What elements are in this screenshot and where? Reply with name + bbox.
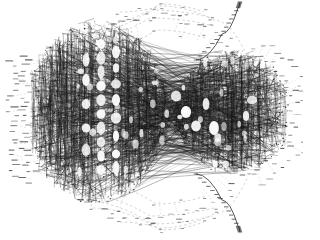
graph-node xyxy=(214,96,215,97)
graph-node xyxy=(283,85,284,86)
graph-node xyxy=(276,103,277,104)
graph-node xyxy=(115,159,116,160)
graph-node xyxy=(174,117,176,119)
graph-node xyxy=(70,192,71,193)
graph-node xyxy=(198,112,199,113)
graph-node xyxy=(94,21,95,22)
graph-node xyxy=(103,178,104,179)
graph-node xyxy=(186,85,187,86)
graph-node xyxy=(67,101,68,102)
graph-node xyxy=(47,135,48,136)
graph-node xyxy=(235,117,237,119)
leaf-connector xyxy=(32,60,41,62)
graph-node xyxy=(158,145,159,146)
graph-node xyxy=(176,117,177,118)
graph-node xyxy=(263,161,264,162)
graph-node xyxy=(283,122,284,123)
graph-node xyxy=(244,60,245,61)
graph-node xyxy=(51,48,52,49)
graph-node xyxy=(181,107,182,108)
graph-node xyxy=(241,73,242,74)
graph-node xyxy=(172,106,173,107)
graph-node xyxy=(105,194,106,195)
graph-node xyxy=(159,145,160,146)
graph-edge xyxy=(54,176,62,178)
graph-node xyxy=(85,88,86,89)
graph-node xyxy=(89,96,90,97)
graph-node xyxy=(36,87,37,88)
graph-node xyxy=(139,68,140,69)
graph-node xyxy=(273,126,274,127)
graph-edge xyxy=(254,167,262,168)
graph-node xyxy=(89,93,90,94)
graph-node xyxy=(151,131,153,133)
graph-node xyxy=(165,86,166,87)
graph-node xyxy=(211,106,212,107)
graph-node xyxy=(258,85,259,86)
graph-node xyxy=(81,122,83,124)
graph-node xyxy=(188,105,189,106)
graph-node xyxy=(226,171,227,172)
graph-node xyxy=(245,96,246,97)
graph-node xyxy=(263,149,264,150)
graph-node xyxy=(239,133,240,134)
lattice-void xyxy=(77,168,82,177)
graph-node xyxy=(161,133,163,135)
graph-node xyxy=(91,179,93,181)
graph-node xyxy=(148,67,150,69)
graph-node xyxy=(189,102,190,103)
graph-node xyxy=(74,153,75,154)
graph-node xyxy=(218,116,219,117)
graph-node xyxy=(233,89,234,90)
graph-node xyxy=(95,56,96,57)
lattice-void xyxy=(171,91,181,102)
graph-node xyxy=(58,161,59,162)
graph-node xyxy=(255,96,256,97)
leaf-connector xyxy=(256,46,263,61)
graph-node xyxy=(151,113,152,114)
graph-node xyxy=(250,56,251,57)
graph-node xyxy=(209,110,211,112)
graph-node xyxy=(244,82,245,83)
graph-node xyxy=(110,198,111,199)
graph-node xyxy=(271,87,272,88)
graph-node xyxy=(162,83,163,84)
graph-node xyxy=(221,106,222,107)
graph-node xyxy=(200,81,202,83)
graph-node xyxy=(225,52,226,53)
graph-node xyxy=(158,77,159,78)
graph-node xyxy=(187,77,188,78)
graph-node xyxy=(230,65,232,67)
graph-node xyxy=(84,28,86,30)
graph-node xyxy=(158,95,159,96)
lattice-void xyxy=(139,129,143,138)
graph-node xyxy=(191,141,192,142)
graph-node xyxy=(278,129,279,130)
graph-node xyxy=(180,122,182,124)
graph-node xyxy=(218,170,219,171)
graph-node xyxy=(270,144,271,145)
graph-node xyxy=(183,133,184,134)
graph-node xyxy=(227,136,229,138)
graph-node xyxy=(59,122,60,123)
graph-edge xyxy=(284,82,287,85)
graph-node xyxy=(223,85,224,86)
graph-node xyxy=(195,138,196,139)
graph-node xyxy=(110,100,111,101)
leaf-connector xyxy=(175,204,179,219)
graph-edge xyxy=(214,52,222,53)
lattice-void xyxy=(83,53,90,67)
leaf-connector xyxy=(30,160,38,162)
graph-node xyxy=(66,60,68,62)
graph-node xyxy=(227,87,229,89)
graph-node xyxy=(283,106,284,107)
graph-node xyxy=(222,144,224,146)
graph-node xyxy=(140,105,141,106)
graph-node xyxy=(148,64,149,65)
graph-node xyxy=(251,136,252,137)
graph-node xyxy=(156,151,157,152)
graph-node xyxy=(275,88,276,89)
graph-node xyxy=(56,139,58,141)
graph-node xyxy=(180,92,181,93)
graph-node xyxy=(61,106,62,107)
